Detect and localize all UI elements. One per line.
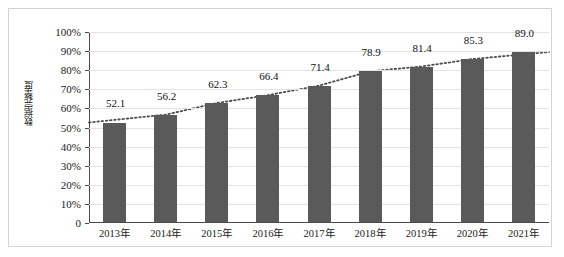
bar-value-label: 89.0 xyxy=(515,27,534,39)
y-tick-mark xyxy=(85,223,89,224)
chart-frame: 数据完整度 100%90%80%70%60%50%40%30%20%10%0 5… xyxy=(8,8,552,247)
y-tick-label: 20% xyxy=(61,179,81,191)
gridline xyxy=(89,51,549,52)
x-tick-label: 2014年 xyxy=(150,225,181,240)
bar-value-label: 62.3 xyxy=(208,78,227,90)
x-tick-label: 2020年 xyxy=(457,225,488,240)
y-tick-mark xyxy=(85,128,89,129)
y-tick-label: 90% xyxy=(61,45,81,57)
bar xyxy=(103,123,126,223)
y-tick-mark xyxy=(85,32,89,33)
y-tick-label: 0 xyxy=(76,217,82,229)
bar xyxy=(205,103,228,222)
bar-value-label: 78.9 xyxy=(361,46,380,58)
bar xyxy=(154,115,177,222)
bar-value-label: 85.3 xyxy=(464,34,483,46)
y-tick-label: 40% xyxy=(61,141,81,153)
x-tick-label: 2021年 xyxy=(508,225,539,240)
bar xyxy=(359,71,382,222)
bar xyxy=(512,52,535,222)
y-tick-label: 30% xyxy=(61,160,81,172)
y-tick-mark xyxy=(85,166,89,167)
bar xyxy=(256,95,279,222)
plot-area: 52.156.262.366.471.478.981.485.389.0 xyxy=(89,32,549,223)
y-tick-label: 60% xyxy=(61,102,81,114)
bar-value-label: 71.4 xyxy=(310,61,329,73)
y-tick-mark xyxy=(85,147,89,148)
x-tick-label: 2013年 xyxy=(99,225,130,240)
y-tick-mark xyxy=(85,204,89,205)
y-tick-label: 70% xyxy=(61,83,81,95)
y-tick-mark xyxy=(85,185,89,186)
bar xyxy=(410,67,433,222)
y-tick-label: 10% xyxy=(61,198,81,210)
bar-value-label: 56.2 xyxy=(157,90,176,102)
bar-value-label: 66.4 xyxy=(259,70,278,82)
y-tick-label: 80% xyxy=(61,64,81,76)
y-tick-label: 50% xyxy=(61,122,81,134)
y-tick-label: 100% xyxy=(55,26,81,38)
bar xyxy=(461,59,484,222)
y-tick-mark xyxy=(85,51,89,52)
y-axis-title: 数据完整度 xyxy=(23,81,39,126)
bar-value-label: 52.1 xyxy=(106,97,125,109)
x-tick-label: 2017年 xyxy=(304,225,335,240)
y-tick-mark xyxy=(85,70,89,71)
x-axis-line xyxy=(89,222,549,223)
y-tick-mark xyxy=(85,108,89,109)
x-tick-label: 2016年 xyxy=(252,225,283,240)
x-axis-tick-labels: 2013年2014年2015年2016年2017年2018年2019年2020年… xyxy=(89,225,549,243)
bar xyxy=(308,86,331,222)
x-tick-label: 2015年 xyxy=(201,225,232,240)
x-tick-label: 2019年 xyxy=(406,225,437,240)
bar-value-label: 81.4 xyxy=(413,42,432,54)
gridline xyxy=(89,32,549,33)
y-tick-mark xyxy=(85,89,89,90)
x-tick-label: 2018年 xyxy=(355,225,386,240)
y-axis-tick-labels: 100%90%80%70%60%50%40%30%20%10%0 xyxy=(43,32,85,223)
